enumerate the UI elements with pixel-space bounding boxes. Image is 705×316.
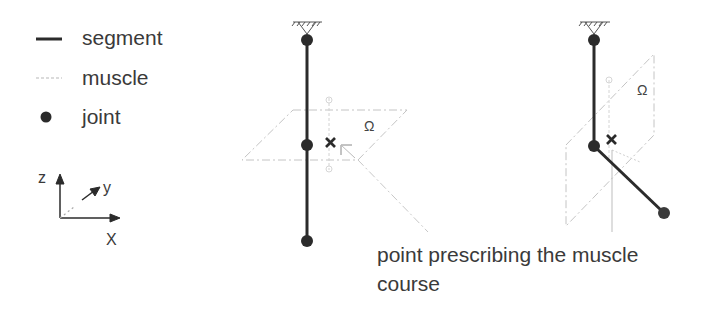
joint-top <box>301 34 313 46</box>
left-diagram <box>242 22 428 247</box>
muscle-point-marker-icon <box>607 135 616 144</box>
axis-label-x: X <box>106 232 117 248</box>
right-diagram <box>566 22 670 232</box>
legend-label-segment: segment <box>82 27 163 48</box>
joint-middle <box>301 139 313 151</box>
legend-label-joint: joint <box>82 106 121 127</box>
joint-dot-icon <box>41 112 52 123</box>
joint-end <box>658 207 670 219</box>
axis-label-z: z <box>38 170 46 186</box>
joint-bottom <box>301 235 313 247</box>
plane-label-right: Ω <box>637 83 647 97</box>
fixed-support-icon <box>579 22 610 34</box>
legend-label-muscle: muscle <box>82 67 149 88</box>
axis-label-y: y <box>103 180 111 196</box>
caption-text: point prescribing the muscle course <box>377 240 697 298</box>
muscle-point-marker-icon <box>326 138 335 147</box>
fixed-support-icon <box>292 22 322 34</box>
plane-label-left: Ω <box>364 119 374 133</box>
plane-omega <box>242 110 407 160</box>
segment-line-lower <box>594 146 664 213</box>
joint-top <box>588 34 600 46</box>
joint-middle <box>588 140 600 152</box>
